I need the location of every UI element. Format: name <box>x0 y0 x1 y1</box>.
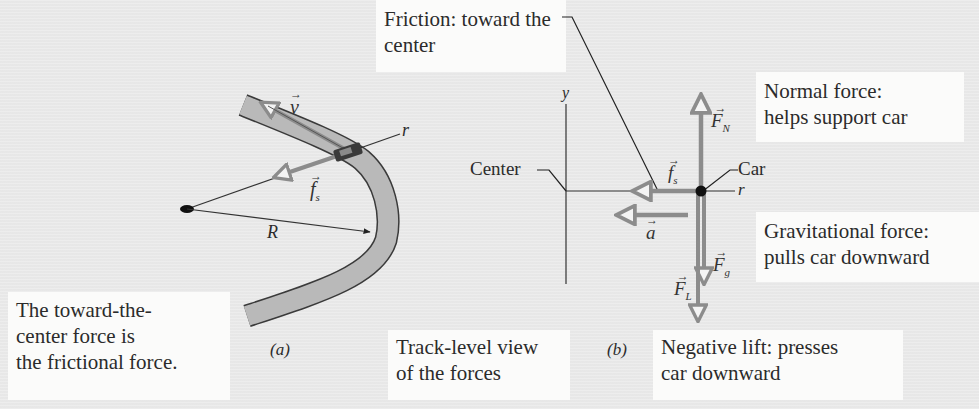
car-label: Car <box>738 158 765 180</box>
car-leader-line <box>703 170 738 191</box>
diagram-svg <box>0 0 979 409</box>
friction-leader-line <box>562 17 658 191</box>
acceleration-label: →a <box>646 222 656 244</box>
friction-arrow-a <box>275 154 343 177</box>
panel-b-drawing <box>537 17 738 320</box>
car-dot <box>696 186 707 197</box>
velocity-label: →v <box>290 96 299 119</box>
lift-force-label: →FL <box>674 278 692 302</box>
r-axis-label-b: r <box>738 180 745 200</box>
figure: Friction: toward the center Normal force… <box>0 0 979 409</box>
panel-b-label: (b) <box>607 340 627 360</box>
panel-a-label: (a) <box>270 340 290 360</box>
r-axis-label-a: r <box>402 120 409 141</box>
radius-line <box>187 209 370 232</box>
panel-a-drawing <box>180 103 400 316</box>
friction-label-a: →fs <box>310 178 320 203</box>
friction-label-b: →fs <box>668 162 678 186</box>
center-leader-line <box>537 170 566 191</box>
center-label: Center <box>470 158 521 180</box>
y-axis-label: y <box>562 84 569 102</box>
radius-label: R <box>267 222 278 243</box>
gravity-force-label: →Fg <box>713 254 730 278</box>
normal-force-label: →FN <box>711 110 730 134</box>
